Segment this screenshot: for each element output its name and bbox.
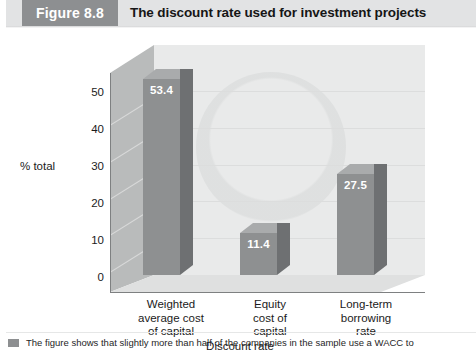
y-tick-label-0: 0 <box>98 270 104 284</box>
bar-equity-cost-of-capital: 11.4 <box>240 233 290 275</box>
bar-value-label-1: 53.4 <box>143 84 180 96</box>
figure-header-band: Figure 8.8 The discount rate used for in… <box>6 0 476 26</box>
gridline-50 <box>154 91 425 92</box>
bar-value-label-3: 27.5 <box>337 179 374 191</box>
gridline-40 <box>154 128 425 129</box>
category-label-1-line1: Weighted <box>116 298 226 312</box>
bar-side-face-2 <box>277 223 290 275</box>
bar-weighted-average-cost-of-capital: 53.4 <box>143 79 193 275</box>
bar-value-label-2: 11.4 <box>240 238 277 250</box>
background-watermark <box>196 72 346 222</box>
caption-bullet-icon <box>8 339 19 347</box>
y-tick-label-40: 40 <box>91 122 104 136</box>
bar-side-face-1 <box>180 69 193 275</box>
y-tick-label-10: 10 <box>91 233 104 247</box>
category-label-3-line2: borrowing <box>311 312 421 326</box>
bar-chart: 50 40 30 20 10 0 % total 53.4 11.4 <box>0 28 476 330</box>
bar-side-face-3 <box>374 164 387 275</box>
y-tick-label-50: 50 <box>91 85 104 99</box>
figure-caption: The figure shows that slightly more than… <box>0 337 476 348</box>
y-tick-label-20: 20 <box>91 196 104 210</box>
x-axis-line <box>110 292 425 293</box>
bar-front-face-1: 53.4 <box>143 79 180 275</box>
bar-front-face-3: 27.5 <box>337 174 374 275</box>
y-tick-label-30: 30 <box>91 159 104 173</box>
category-label-3-line1: Long-term <box>311 298 421 312</box>
figure-title: The discount rate used for investment pr… <box>130 0 426 26</box>
bar-front-face-2: 11.4 <box>240 233 277 275</box>
caption-text: The figure shows that slightly more than… <box>26 337 466 348</box>
chart-floor <box>110 275 425 292</box>
figure-number-label: Figure 8.8 <box>22 0 118 26</box>
caption-divider <box>6 332 476 333</box>
category-label-2-line2: cost of <box>215 312 325 326</box>
y-axis-line <box>110 73 111 292</box>
figure-number-tab: Figure 8.8 <box>22 0 118 26</box>
y-axis-title: % total <box>20 159 55 173</box>
bar-long-term-borrowing-rate: 27.5 <box>337 174 387 275</box>
page-left-margin <box>0 0 6 348</box>
category-label-1-line2: average cost <box>116 312 226 326</box>
category-label-2-line1: Equity <box>215 298 325 312</box>
